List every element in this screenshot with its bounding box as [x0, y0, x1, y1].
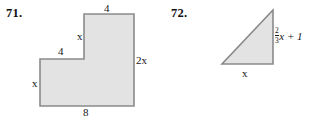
dimension-label-left-x: x: [32, 78, 38, 89]
problem-72-figure: 72. x 2 3 x + 1: [161, 0, 322, 123]
right-triangle-drawing: [161, 0, 322, 123]
dimension-label-bottom-8: 8: [83, 107, 89, 118]
dimension-label-top-4: 4: [104, 3, 110, 14]
l-shaped-polygon-path: [40, 14, 134, 106]
height-expression-rest: x + 1: [279, 30, 302, 42]
dimension-label-right-2x: 2x: [136, 55, 147, 66]
dimension-label-inner-x: x: [77, 31, 83, 42]
right-triangle-path: [222, 10, 273, 64]
dimension-label-mid-4: 4: [58, 46, 64, 57]
problem-71-figure: 71. 4 x 4 x 2x 8: [0, 0, 161, 123]
dimension-label-triangle-base-x: x: [242, 68, 248, 79]
dimension-label-triangle-height: 2 3 x + 1: [275, 27, 303, 45]
